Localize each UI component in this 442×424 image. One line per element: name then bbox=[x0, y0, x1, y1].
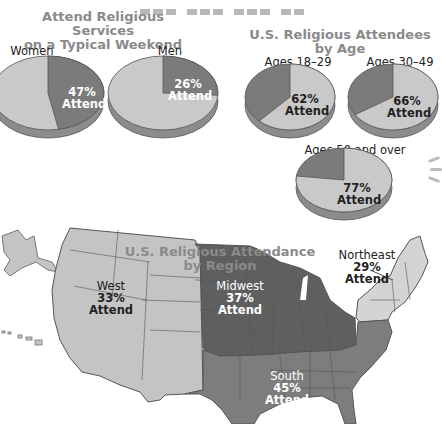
pie-annotation-men: 26% Attend bbox=[163, 78, 213, 102]
region-sub: Attend bbox=[262, 394, 312, 406]
region-sub: Attend bbox=[332, 273, 402, 285]
annotation-text: 47% Attend bbox=[62, 86, 102, 110]
map-alaska bbox=[2, 230, 58, 276]
region-label-midwest: Midwest 37% Attend bbox=[210, 280, 270, 316]
pie-annotation-women: 47% Attend bbox=[57, 86, 107, 110]
pie-annotation-30-49: 66% Attend bbox=[382, 95, 432, 119]
annotation-text: 26% Attend bbox=[168, 78, 208, 102]
decorative-mark bbox=[430, 168, 442, 171]
region-label-west: West 33% Attend bbox=[86, 280, 136, 316]
annotation-text: 77% Attend bbox=[337, 182, 377, 206]
map-hawaii bbox=[2, 331, 42, 345]
map-chart-title: U.S. Religious Attendance by Region bbox=[110, 245, 330, 273]
annotation-text: 66% Attend bbox=[387, 95, 427, 119]
annotation-text: 62% Attend bbox=[285, 93, 325, 117]
map-title-line1: U.S. Religious Attendance bbox=[110, 245, 330, 259]
pie-annotation-50-over: 77% Attend bbox=[332, 182, 382, 206]
region-sub: Attend bbox=[210, 304, 270, 316]
map-title-line2: by Region bbox=[110, 259, 330, 273]
pie-annotation-18-29: 62% Attend bbox=[280, 93, 330, 117]
region-sub: Attend bbox=[86, 304, 136, 316]
region-label-northeast: Northeast 29% Attend bbox=[332, 249, 402, 285]
region-label-south: South 45% Attend bbox=[262, 370, 312, 406]
